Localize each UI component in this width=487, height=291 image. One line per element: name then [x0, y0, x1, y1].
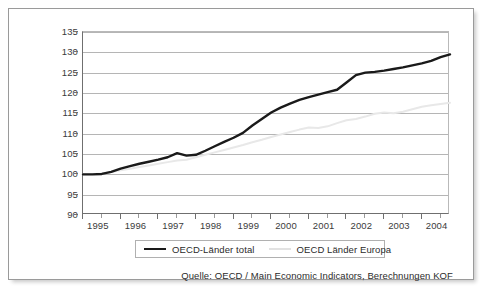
y-axis-tick — [74, 31, 78, 32]
gray-line-swatch — [269, 248, 291, 250]
y-axis-tick — [74, 173, 78, 174]
plot-area — [82, 31, 449, 214]
x-axis-tick-label: 2000 — [275, 220, 297, 231]
black-line-swatch — [144, 248, 166, 250]
x-axis-tick — [120, 214, 121, 219]
figure-frame: 9095100105110115120125130135 19951996199… — [8, 8, 474, 280]
x-axis-tick — [327, 214, 328, 218]
x-axis-labels: 1995199619971998199920002001200220032004 — [82, 220, 449, 234]
source-caption: Quelle: OECD / Main Economic Indicators,… — [181, 270, 453, 281]
x-axis-tick — [402, 214, 403, 218]
x-axis-tick — [251, 214, 252, 218]
x-axis-tick-label: 1999 — [238, 220, 260, 231]
x-axis-tick-label: 1997 — [162, 220, 184, 231]
x-axis-tick-label: 2002 — [351, 220, 373, 231]
legend-label-oecd-total: OECD-Länder total — [172, 244, 255, 255]
chart-legend: OECD-Länder total OECD Länder Europa — [135, 240, 385, 258]
y-axis-tick — [74, 194, 78, 195]
x-axis-tick-label: 1998 — [200, 220, 222, 231]
x-axis-tick — [138, 214, 139, 218]
legend-item-oecd-europa: OECD Länder Europa — [255, 241, 392, 257]
y-axis-tick — [74, 112, 78, 113]
x-axis-tick — [233, 214, 234, 219]
y-axis-tick — [74, 51, 78, 52]
x-axis-tick-label: 1996 — [125, 220, 147, 231]
x-axis-tick — [289, 214, 290, 218]
x-axis-tick — [421, 214, 422, 219]
x-axis-tick — [214, 214, 215, 218]
x-axis-tick-label: 1995 — [87, 220, 109, 231]
x-axis-tick — [364, 214, 365, 218]
x-axis-tick-label: 2004 — [426, 220, 448, 231]
legend-label-oecd-europa: OECD Länder Europa — [297, 244, 392, 255]
chart-figure: 9095100105110115120125130135 19951996199… — [0, 0, 487, 291]
y-axis-tick — [74, 214, 78, 215]
x-axis-tick-label: 2001 — [313, 220, 335, 231]
x-axis-tick — [345, 214, 346, 219]
plot-background — [82, 31, 449, 214]
x-axis-tick — [440, 214, 441, 218]
x-axis-tick — [383, 214, 384, 219]
y-axis-tick — [74, 72, 78, 73]
x-axis-tick-label: 2003 — [388, 220, 410, 231]
x-axis-tick — [270, 214, 271, 219]
x-axis-tick — [101, 214, 102, 218]
legend-item-oecd-total: OECD-Länder total — [136, 241, 255, 257]
x-axis-tick — [82, 214, 83, 219]
series-lines — [83, 32, 450, 215]
y-axis-labels: 9095100105110115120125130135 — [45, 31, 78, 214]
y-axis-tick — [74, 153, 78, 154]
x-axis-tick — [195, 214, 196, 219]
y-axis-tick — [74, 133, 78, 134]
y-axis-tick — [74, 92, 78, 93]
x-axis-tick — [308, 214, 309, 219]
x-axis-tick — [157, 214, 158, 219]
x-axis-tick — [176, 214, 177, 218]
series-line — [83, 54, 450, 174]
